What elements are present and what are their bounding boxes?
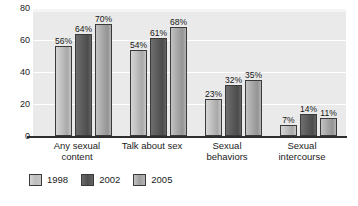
y-tick-label-0: 0	[4, 132, 30, 141]
bar-group-1: 54% 61% 68%	[130, 8, 194, 136]
y-axis: 80 60 40 20 0	[0, 0, 30, 150]
bar-1998-0: 56%	[55, 46, 72, 136]
bar-2002-0: 64%	[75, 34, 92, 136]
legend-item-1998: 1998	[29, 174, 68, 186]
legend-swatch-icon-2005	[133, 174, 146, 186]
bar-2005-2: 35%	[245, 80, 262, 136]
y-tick-label-60: 60	[4, 36, 30, 45]
legend-item-2002: 2002	[81, 174, 120, 186]
bar-group-2: 23% 32% 35%	[205, 8, 269, 136]
bar-1998-3: 7%	[280, 125, 297, 136]
bar-value-label: 35%	[245, 71, 262, 80]
bar-2002-2: 32%	[225, 85, 242, 136]
bar-value-label: 14%	[300, 105, 317, 114]
bar-value-label: 54%	[130, 41, 147, 50]
bar-2005-3: 11%	[320, 118, 337, 136]
legend-swatch-icon-1998	[29, 174, 42, 186]
bar-group-0: 56% 64% 70%	[55, 8, 119, 136]
bar-value-label: 68%	[170, 18, 187, 27]
bar-value-label: 70%	[95, 15, 112, 24]
y-tick-label-40: 40	[4, 68, 30, 77]
x-category-label-3: Sexual intercourse	[256, 140, 348, 162]
x-axis-line	[27, 136, 347, 138]
bar-1998-2: 23%	[205, 99, 222, 136]
bar-2005-1: 68%	[170, 27, 187, 136]
legend-label-1998: 1998	[47, 175, 68, 185]
bar-2002-3: 14%	[300, 114, 317, 136]
legend-item-2005: 2005	[133, 174, 172, 186]
bar-value-label: 32%	[225, 76, 242, 85]
plot-area: 56% 64% 70% 54% 61% 68% 23%	[33, 8, 346, 136]
bar-2005-0: 70%	[95, 24, 112, 136]
bar-2002-1: 61%	[150, 38, 167, 136]
legend-label-2005: 2005	[151, 175, 172, 185]
bar-value-label: 11%	[320, 109, 336, 118]
bar-group-3: 7% 14% 11%	[280, 8, 344, 136]
bar-1998-1: 54%	[130, 50, 147, 136]
bar-value-label: 56%	[55, 37, 72, 46]
legend-label-2002: 2002	[99, 175, 120, 185]
bar-chart: 56% 64% 70% 54% 61% 68% 23%	[0, 0, 358, 206]
legend: 1998 2002 2005	[29, 174, 185, 186]
y-tick-label-20: 20	[4, 100, 30, 109]
bar-value-label: 23%	[205, 90, 222, 99]
bar-value-label: 64%	[75, 25, 92, 34]
legend-swatch-icon-2002	[81, 174, 94, 186]
bar-value-label: 7%	[282, 116, 294, 125]
y-tick-label-80: 80	[4, 4, 30, 13]
bar-value-label: 61%	[150, 29, 167, 38]
